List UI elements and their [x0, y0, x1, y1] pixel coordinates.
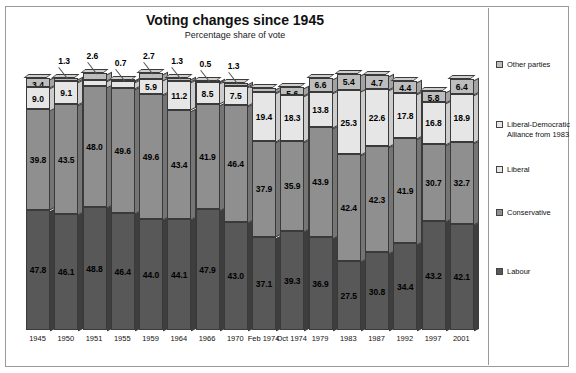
liberal-segment[interactable]: 19.4 [252, 92, 276, 141]
labour-segment[interactable]: 48.8 [83, 207, 107, 330]
liberal-segment[interactable]: 17.8 [393, 93, 417, 138]
bar-2001[interactable]: 42.132.718.96.4 [450, 79, 474, 330]
bar-1979[interactable]: 36.943.913.86.6 [309, 78, 333, 330]
liberal-segment[interactable]: 13.8 [309, 92, 333, 127]
segment-value: 9.0 [27, 95, 49, 104]
bar-1955[interactable]: 46.449.6 [111, 80, 135, 330]
legend-label: Conservative [507, 208, 551, 218]
labour-segment[interactable]: 36.9 [309, 237, 333, 330]
liberal-segment[interactable]: 18.3 [280, 95, 304, 141]
segment-value: 25.3 [338, 119, 360, 128]
conservative-segment[interactable]: 48.0 [83, 86, 107, 207]
bar-1959[interactable]: 44.049.65.9 [139, 73, 163, 330]
labour-segment[interactable]: 46.4 [111, 213, 135, 330]
other-parties-segment[interactable]: 5.4 [337, 74, 361, 91]
segment-value: 6.4 [451, 83, 473, 92]
conservative-segment[interactable]: 46.4 [224, 105, 248, 222]
liberal-segment[interactable]: 5.9 [139, 79, 163, 94]
segment-value: 3.4 [27, 81, 49, 87]
labour-segment[interactable]: 46.1 [54, 214, 78, 330]
bar-Feb-1974[interactable]: 37.137.919.43.1 [252, 88, 276, 330]
labour-segment[interactable]: 30.8 [365, 252, 389, 330]
bar-1992[interactable]: 34.441.917.84.4 [393, 81, 417, 330]
legend-item-other[interactable]: Other parties [496, 60, 550, 70]
bar-1964[interactable]: 44.143.411.2 [167, 78, 191, 330]
other-parties-segment[interactable]: 5.6 [280, 87, 304, 95]
other-parties-segment[interactable]: 3.4 [26, 78, 50, 87]
other-parties-segment[interactable]: 6.4 [450, 79, 474, 94]
bar-top-face [278, 83, 306, 87]
legend-label: Liberal-Democratic Alliance from 1983 [507, 120, 570, 139]
bar-1987[interactable]: 30.842.322.64.7 [365, 75, 389, 330]
legend-swatch [496, 166, 503, 173]
labour-segment[interactable]: 39.3 [280, 231, 304, 330]
conservative-segment[interactable]: 42.4 [337, 154, 361, 261]
conservative-segment[interactable]: 42.3 [365, 146, 389, 253]
other-parties-segment[interactable]: 4.7 [365, 75, 389, 89]
conservative-segment[interactable]: 39.8 [26, 109, 50, 209]
other-parties-segment[interactable]: 5.8 [422, 91, 446, 102]
liberal-segment[interactable]: 22.6 [365, 89, 389, 146]
labour-segment[interactable]: 43.0 [224, 222, 248, 330]
other-parties-segment[interactable] [83, 73, 107, 80]
segment-value: 6.6 [310, 81, 332, 90]
other-parties-callout: 1.3 [171, 56, 183, 66]
liberal-segment[interactable]: 18.9 [450, 94, 474, 142]
conservative-segment[interactable]: 43.9 [309, 127, 333, 238]
bar-1983[interactable]: 27.542.425.35.4 [337, 74, 361, 330]
segment-value: 4.7 [366, 79, 388, 88]
segment-value: 39.3 [281, 277, 303, 286]
other-parties-segment[interactable]: 3.1 [252, 88, 276, 92]
conservative-segment[interactable]: 43.4 [167, 110, 191, 219]
conservative-segment[interactable]: 41.9 [196, 104, 220, 210]
conservative-segment[interactable]: 49.6 [111, 88, 135, 213]
liberal-segment[interactable]: 9.0 [26, 87, 50, 110]
labour-segment[interactable]: 47.8 [26, 210, 50, 330]
conservative-segment[interactable]: 37.9 [252, 141, 276, 236]
liberal-segment[interactable]: 25.3 [337, 90, 361, 154]
other-parties-segment[interactable]: 4.4 [393, 81, 417, 93]
bar-Oct-1974[interactable]: 39.335.918.35.6 [280, 87, 304, 330]
labour-segment[interactable]: 47.9 [196, 209, 220, 330]
labour-segment[interactable]: 44.0 [139, 219, 163, 330]
liberal-segment[interactable]: 16.8 [422, 102, 446, 144]
bar-1970[interactable]: 43.046.47.5 [224, 83, 248, 330]
segment-value: 19.4 [253, 113, 275, 122]
labour-segment[interactable]: 43.2 [422, 221, 446, 330]
labour-segment[interactable]: 44.1 [167, 219, 191, 330]
legend-item-liberal-democratic[interactable]: Liberal-Democratic Alliance from 1983 [496, 120, 570, 139]
labour-segment[interactable]: 37.1 [252, 237, 276, 330]
conservative-segment[interactable]: 30.7 [422, 144, 446, 221]
bar-1950[interactable]: 46.143.59.1 [54, 78, 78, 330]
labour-segment[interactable]: 27.5 [337, 261, 361, 330]
liberal-segment[interactable]: 9.1 [54, 81, 78, 104]
segment-value: 7.5 [225, 92, 247, 101]
liberal-segment[interactable]: 11.2 [167, 81, 191, 109]
liberal-segment[interactable] [111, 81, 135, 88]
liberal-segment[interactable]: 8.5 [196, 82, 220, 103]
other-parties-segment[interactable]: 6.6 [309, 78, 333, 92]
conservative-segment[interactable]: 43.5 [54, 104, 78, 214]
chart-page: Voting changes since 1945 Percentage sha… [0, 0, 576, 373]
other-parties-callout: 0.7 [115, 58, 127, 68]
bar-1997[interactable]: 43.230.716.85.8 [422, 91, 446, 331]
liberal-segment-side [474, 93, 479, 143]
legend-item-liberal[interactable]: Liberal [496, 165, 530, 175]
labour-segment[interactable]: 34.4 [393, 243, 417, 330]
conservative-segment[interactable]: 35.9 [280, 141, 304, 231]
segment-value: 8.5 [197, 90, 219, 99]
liberal-segment[interactable] [83, 80, 107, 87]
conservative-segment[interactable]: 41.9 [393, 138, 417, 244]
legend-item-conservative[interactable]: Conservative [496, 208, 551, 218]
labour-segment[interactable]: 42.1 [450, 224, 474, 330]
conservative-segment[interactable]: 49.6 [139, 94, 163, 219]
bar-1966[interactable]: 47.941.98.5 [196, 81, 220, 330]
bar-1951[interactable]: 48.848.0 [83, 73, 107, 330]
liberal-segment[interactable]: 7.5 [224, 86, 248, 105]
conservative-segment[interactable]: 32.7 [450, 142, 474, 224]
legend-item-labour[interactable]: Labour [496, 267, 530, 277]
segment-value: 32.7 [451, 179, 473, 188]
segment-value: 11.2 [168, 92, 190, 101]
bar-1945[interactable]: 47.839.89.03.4 [26, 78, 50, 330]
segment-value: 18.9 [451, 114, 473, 123]
